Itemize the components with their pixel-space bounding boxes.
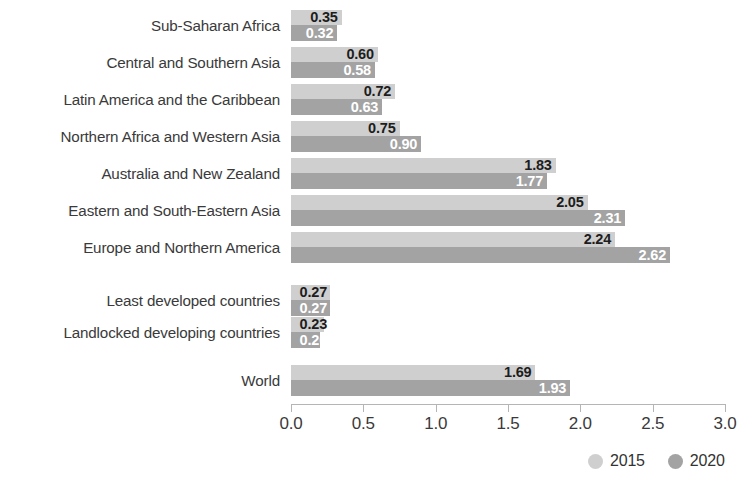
- bar-value-2020: 0.27: [291, 300, 331, 316]
- x-axis-tick: [363, 404, 364, 412]
- bar-group: 2.242.62: [291, 232, 748, 263]
- category-label: Latin America and the Caribbean: [0, 84, 280, 115]
- chart-row: Latin America and the Caribbean0.720.63: [0, 84, 748, 115]
- bar-value-2020: 0.90: [381, 136, 421, 152]
- bar-2020: [291, 380, 570, 396]
- x-axis-tick-label: 3.0: [690, 414, 748, 434]
- category-label: World: [0, 365, 280, 396]
- x-axis-tick-label: 2.0: [545, 414, 615, 434]
- chart-row: Central and Southern Asia0.600.58: [0, 47, 748, 78]
- bar-group: 1.831.77: [291, 158, 748, 189]
- x-axis-tick-label: 0.5: [328, 414, 398, 434]
- bar-value-2015: 0.23: [291, 317, 331, 332]
- bar-value-2015: 1.83: [516, 158, 556, 173]
- legend-label: 2020: [690, 452, 725, 470]
- bar-group: 2.052.31: [291, 195, 748, 226]
- category-label: Northern Africa and Western Asia: [0, 121, 280, 152]
- x-axis-tick-label: 0.0: [256, 414, 326, 434]
- bar-value-2015: 2.05: [548, 195, 588, 210]
- chart-row: Sub-Saharan Africa0.350.32: [0, 10, 748, 41]
- category-label: Europe and Northern America: [0, 232, 280, 263]
- category-label: Central and Southern Asia: [0, 47, 280, 78]
- bar-group: 0.350.32: [291, 10, 748, 41]
- chart-row: Eastern and South-Eastern Asia2.052.31: [0, 195, 748, 226]
- x-axis-tick: [436, 404, 437, 412]
- chart-row: Northern Africa and Western Asia0.750.90: [0, 121, 748, 152]
- x-axis-tick: [291, 404, 292, 412]
- category-label: Australia and New Zealand: [0, 158, 280, 189]
- chart-legend: 20152020: [588, 450, 725, 472]
- bar-value-2015: 2.24: [575, 232, 615, 247]
- chart-row: Europe and Northern America2.242.62: [0, 232, 748, 263]
- bar-value-2015: 0.27: [291, 285, 331, 300]
- bar-group: 0.600.58: [291, 47, 748, 78]
- bar-value-2020: 1.77: [507, 173, 547, 189]
- x-axis-tick: [725, 404, 726, 412]
- bar-value-2020: 2.31: [585, 210, 625, 226]
- horizontal-bar-chart: Sub-Saharan Africa0.350.32Central and So…: [0, 0, 748, 480]
- bar-2020: [291, 210, 625, 226]
- x-axis-tick-label: 2.5: [618, 414, 688, 434]
- x-axis-tick-label: 1.5: [473, 414, 543, 434]
- legend-item-2020[interactable]: 2020: [668, 452, 725, 470]
- bar-value-2020: 0.63: [342, 99, 382, 115]
- bar-group: 0.750.90: [291, 121, 748, 152]
- bar-value-2020: 2.62: [630, 247, 670, 263]
- x-axis: [291, 404, 725, 413]
- bar-group: 0.230.20: [291, 317, 748, 348]
- bar-group: 0.720.63: [291, 84, 748, 115]
- bar-value-2015: 0.60: [338, 47, 378, 62]
- bar-value-2020: 0.20: [291, 332, 331, 348]
- bar-2015: [291, 195, 588, 210]
- legend-dot-2015-icon: [588, 454, 603, 469]
- chart-row: Landlocked developing countries0.230.20: [0, 317, 748, 348]
- category-label: Landlocked developing countries: [0, 317, 280, 348]
- bar-2020: [291, 247, 670, 263]
- bar-value-2020: 0.58: [335, 62, 375, 78]
- bar-2015: [291, 232, 615, 247]
- bar-value-2020: 1.93: [530, 380, 570, 396]
- chart-row: Australia and New Zealand1.831.77: [0, 158, 748, 189]
- category-label: Sub-Saharan Africa: [0, 10, 280, 41]
- x-axis-tick-label: 1.0: [401, 414, 471, 434]
- category-label: Eastern and South-Eastern Asia: [0, 195, 280, 226]
- x-axis-tick: [653, 404, 654, 412]
- category-label: Least developed countries: [0, 285, 280, 316]
- x-axis-tick: [508, 404, 509, 412]
- legend-item-2015[interactable]: 2015: [588, 452, 645, 470]
- x-axis-tick: [580, 404, 581, 412]
- bar-value-2015: 1.69: [495, 365, 535, 380]
- bar-value-2015: 0.72: [355, 84, 395, 99]
- bar-group: 1.691.93: [291, 365, 748, 396]
- chart-row: Least developed countries0.270.27: [0, 285, 748, 316]
- bar-value-2015: 0.35: [302, 10, 342, 25]
- legend-label: 2015: [610, 452, 645, 470]
- legend-dot-2020-icon: [668, 454, 683, 469]
- chart-row: World1.691.93: [0, 365, 748, 396]
- bar-group: 0.270.27: [291, 285, 748, 316]
- bar-value-2020: 0.32: [297, 25, 337, 41]
- bar-value-2015: 0.75: [360, 121, 400, 136]
